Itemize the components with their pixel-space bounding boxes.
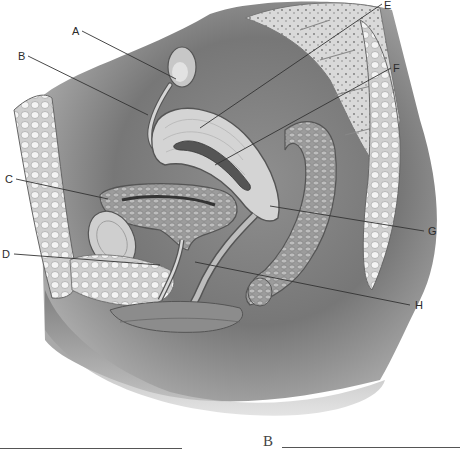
label-d: D xyxy=(2,249,10,260)
label-e: E xyxy=(384,0,391,11)
label-b: B xyxy=(18,51,25,62)
label-f: F xyxy=(393,63,400,74)
label-a: A xyxy=(72,26,79,37)
anal-sphincter xyxy=(248,278,272,306)
label-g: G xyxy=(428,226,437,237)
label-c: C xyxy=(5,174,13,185)
answer-blank-b[interactable] xyxy=(282,447,460,448)
answer-letter-b: B xyxy=(263,433,273,450)
label-h: H xyxy=(415,300,423,311)
answer-blank-1[interactable] xyxy=(0,448,182,449)
